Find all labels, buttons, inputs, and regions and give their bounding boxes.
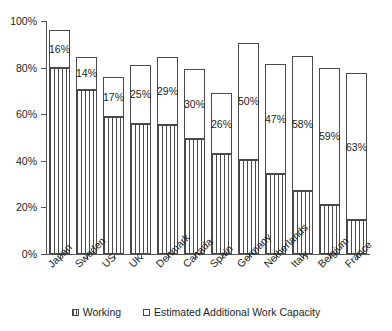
bar-group: 58%	[292, 21, 313, 254]
bar-segment-working	[76, 90, 97, 254]
chart-legend: Working Estimated Additional Work Capaci…	[0, 306, 392, 318]
bar-value-label: 63%	[346, 142, 367, 153]
stacked-bar-chart: 0%20%40%60%80%100% 16%14%17%25%29%30%26%…	[0, 0, 392, 331]
bar-value-label: 14%	[76, 68, 97, 79]
bar-group: 26%	[211, 21, 232, 254]
bar-value-label: 16%	[49, 44, 70, 55]
bar-value-label: 47%	[265, 114, 286, 125]
bar-segment-working	[103, 117, 124, 254]
bar-segment-working	[49, 68, 70, 254]
bar-value-label: 30%	[184, 99, 205, 110]
bar-value-label: 58%	[292, 119, 313, 130]
bar-group: 30%	[184, 21, 205, 254]
bar-group: 47%	[265, 21, 286, 254]
bar-group: 50%	[238, 21, 259, 254]
y-axis-tick-label: 20%	[0, 202, 37, 213]
bar-group: 16%	[49, 21, 70, 254]
bar-group: 25%	[130, 21, 151, 254]
bar-group: 14%	[76, 21, 97, 254]
plot-area: 16%14%17%25%29%30%26%50%47%58%59%63%	[46, 21, 370, 254]
y-axis-tick-label: 60%	[0, 109, 37, 120]
y-axis-tick-label: 40%	[0, 156, 37, 167]
legend-item-working: Working	[72, 306, 121, 318]
hatched-swatch-icon	[72, 309, 79, 316]
y-axis-tick-label: 80%	[0, 63, 37, 74]
bar-group: 59%	[319, 21, 340, 254]
bar-segment-working	[211, 154, 232, 254]
bar-group: 17%	[103, 21, 124, 254]
bar-value-label: 50%	[238, 96, 259, 107]
y-axis-tick	[41, 254, 46, 255]
bar-group: 29%	[157, 21, 178, 254]
bar-value-label: 29%	[157, 86, 178, 97]
bar-value-label: 17%	[103, 92, 124, 103]
bar-segment-working	[130, 124, 151, 254]
legend-label-working: Working	[83, 306, 121, 318]
bar-segment-working	[157, 125, 178, 254]
y-axis-tick-label: 100%	[0, 16, 37, 27]
legend-label-capacity: Estimated Additional Work Capacity	[154, 306, 320, 318]
empty-swatch-icon	[143, 309, 150, 316]
y-axis-tick-label: 0%	[0, 249, 37, 260]
bar-value-label: 26%	[211, 119, 232, 130]
bar-value-label: 59%	[319, 131, 340, 142]
legend-item-capacity: Estimated Additional Work Capacity	[143, 306, 320, 318]
bar-group: 63%	[346, 21, 367, 254]
bar-value-label: 25%	[130, 89, 151, 100]
